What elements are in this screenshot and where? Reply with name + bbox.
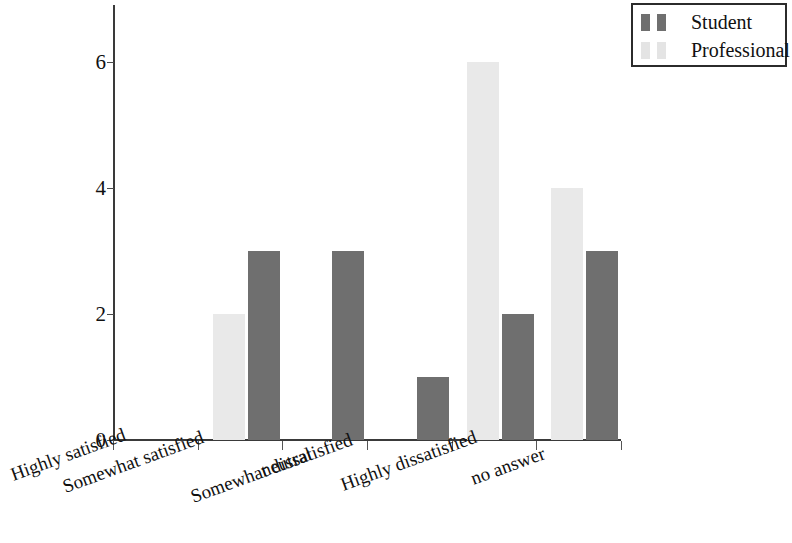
x-tick-mark <box>621 441 622 450</box>
bar-professional-somewhat-satisfied <box>213 314 245 440</box>
y-tick-label: 4 <box>96 177 107 198</box>
plot-area <box>113 5 621 440</box>
legend-swatch-student <box>641 14 683 31</box>
bar-student-somewhat-dissatisfied <box>417 377 449 440</box>
y-tick-label: 6 <box>96 51 107 72</box>
bar-student-no-answer <box>586 251 618 440</box>
legend-swatch-professional <box>641 42 683 59</box>
legend-label-professional: Professional <box>691 40 790 60</box>
y-tick-label: 2 <box>96 303 107 324</box>
bar-student-neutral <box>332 251 364 440</box>
bar-professional-highly-dissatisfied <box>467 62 499 440</box>
x-axis-label-no-answer: no answer <box>468 443 547 487</box>
bar-student-somewhat-satisfied <box>248 251 280 440</box>
x-tick-mark <box>282 441 283 450</box>
chart-legend: Student Professional <box>631 3 787 67</box>
legend-label-student: Student <box>691 12 752 32</box>
bar-student-highly-dissatisfied <box>502 314 534 440</box>
x-axis-label-somewhat-dissatisfied: Somewhat dissatisfied <box>188 430 355 506</box>
x-tick-mark <box>367 441 368 450</box>
bar-professional-no-answer <box>551 188 583 440</box>
legend-item-professional[interactable]: Professional <box>641 36 790 64</box>
legend-item-student[interactable]: Student <box>641 8 752 36</box>
bar-chart: 0246 Highly satisfiedSomewhat satisfiedn… <box>0 0 792 543</box>
